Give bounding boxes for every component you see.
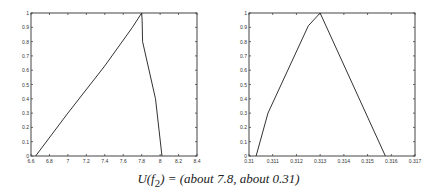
left-membership-chart: 6.66.877.27.47.67.888.28.400.10.20.30.40… — [0, 0, 218, 174]
x-tick-label: 7.2 — [83, 158, 90, 164]
y-tick-label: 0.1 — [22, 139, 29, 145]
caption-prefix: U(f — [137, 171, 154, 186]
membership-line — [256, 13, 385, 156]
y-tick-label: 0 — [244, 153, 247, 159]
x-tick-label: 0.311 — [267, 158, 279, 164]
right-chart-canvas: 0.310.3110.3120.3130.3140.3150.3160.3170… — [218, 0, 437, 170]
y-tick-label: 1 — [26, 10, 29, 16]
y-tick-label: 0.6 — [22, 67, 29, 73]
right-membership-chart: 0.310.3110.3120.3130.3140.3150.3160.3170… — [218, 0, 437, 174]
caption-suffix: ) = (about 7.8, about 0.31) — [160, 171, 299, 186]
y-tick-label: 0.8 — [22, 39, 29, 45]
y-tick-label: 0.3 — [240, 110, 247, 116]
x-tick-label: 0.313 — [314, 158, 327, 164]
y-tick-label: 0.5 — [240, 82, 247, 88]
x-tick-label: 0.314 — [338, 158, 351, 164]
y-tick-label: 0.3 — [22, 110, 29, 116]
x-tick-label: 0.316 — [385, 158, 398, 164]
x-tick-label: 6.8 — [46, 158, 53, 164]
y-tick-label: 0.4 — [22, 96, 29, 102]
y-tick-label: 0.2 — [240, 124, 247, 130]
x-tick-label: 0.317 — [409, 158, 422, 164]
x-tick-label: 7.8 — [138, 158, 145, 164]
x-tick-label: 0.315 — [361, 158, 374, 164]
y-tick-label: 0.2 — [22, 124, 29, 130]
x-tick-label: 7 — [66, 158, 69, 164]
y-tick-label: 0.7 — [22, 53, 29, 59]
left-chart-canvas: 6.66.877.27.47.67.888.28.400.10.20.30.40… — [0, 0, 218, 170]
axes-box — [31, 13, 197, 156]
axes-box — [249, 13, 415, 156]
y-tick-label: 0.9 — [240, 24, 247, 30]
y-tick-label: 0.8 — [240, 39, 247, 45]
membership-line — [36, 13, 162, 156]
x-tick-label: 7.4 — [101, 158, 108, 164]
y-tick-label: 0.4 — [240, 96, 247, 102]
x-tick-label: 0.312 — [290, 158, 303, 164]
y-tick-label: 0 — [26, 153, 29, 159]
y-tick-label: 0.5 — [22, 82, 29, 88]
x-tick-label: 8.2 — [175, 158, 182, 164]
x-tick-label: 8 — [159, 158, 162, 164]
y-tick-label: 0.6 — [240, 67, 247, 73]
y-tick-label: 1 — [244, 10, 247, 16]
figure-caption: U(f2) = (about 7.8, about 0.31) — [0, 171, 437, 189]
y-tick-label: 0.7 — [240, 53, 247, 59]
y-tick-label: 0.1 — [240, 139, 247, 145]
x-tick-label: 8.4 — [194, 158, 201, 164]
y-tick-label: 0.9 — [22, 24, 29, 30]
x-tick-label: 7.6 — [120, 158, 127, 164]
